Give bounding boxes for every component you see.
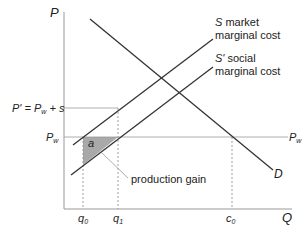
y-axis-label: P: [50, 6, 59, 19]
demand-label: D: [274, 168, 283, 181]
market-supply-label: S marketmarginal cost: [215, 16, 280, 42]
pw-right-label: Pw: [289, 131, 301, 147]
q1-label: q1: [113, 212, 123, 228]
production-gain-label: production gain: [131, 173, 206, 186]
production-gain-leader: [102, 153, 128, 178]
x-axis-label: Q: [282, 211, 292, 224]
market-supply-curve: [73, 39, 213, 145]
p-prime-label: P' = Pw + s: [12, 102, 64, 118]
c0-label: c0: [226, 212, 235, 228]
pw-left-label: Pw: [46, 131, 58, 147]
social-supply-curve: [71, 67, 213, 175]
social-supply-label: S' socialmarginal cost: [215, 52, 280, 78]
area-a-label: a: [88, 137, 94, 150]
q0-label: q0: [78, 212, 88, 228]
